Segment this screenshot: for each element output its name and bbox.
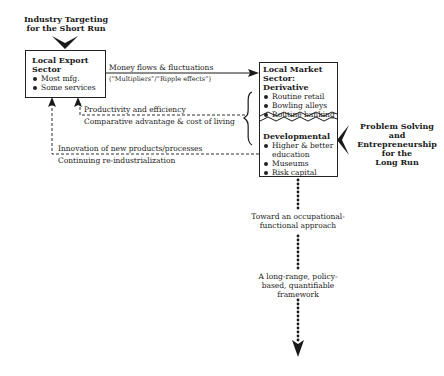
chevron-left-icon (337, 125, 349, 155)
title-line: Derivative (263, 83, 335, 92)
productivity-label: Productivity and efficiency (84, 105, 186, 114)
developmental-items-list: Higher & better education Museums Risk c… (263, 141, 335, 177)
list-item: Some services (32, 83, 99, 92)
developmental-title: Developmental (263, 132, 335, 141)
list-item: Routine banking (263, 110, 335, 119)
heading-line: Long Run (350, 158, 444, 167)
developmental-section: Developmental Higher & better education … (263, 132, 335, 177)
list-item: Routine retail (263, 92, 335, 101)
list-item: Higher & better education (263, 141, 335, 159)
export-box-title: Local Export Sector (32, 56, 99, 74)
local-export-sector-box: Local Export Sector Most mfg. Some servi… (25, 50, 106, 98)
policy-framework-label: A long-range, policy- based, quantifiabl… (243, 272, 353, 299)
dotted-path (297, 179, 300, 342)
label-line: framework (243, 290, 353, 299)
list-item: Museums (263, 159, 335, 168)
export-items-list: Most mfg. Some services (32, 74, 99, 92)
comparative-advantage-label: Comparative advantage & cost of living (84, 117, 235, 126)
label-line: based, quantifiable (243, 281, 353, 290)
multiplier-label: (“Multipliers”/“Ripple effects”) (109, 75, 211, 83)
money-flow-label: Money flows & fluctuations (109, 63, 213, 72)
chevron-down-icon (52, 36, 78, 49)
label-line: functional approach (243, 221, 353, 230)
list-item: Risk capital (263, 168, 335, 177)
reindustrialization-label: Continuing re-industrialization (58, 156, 175, 165)
arrowhead-up-icon (74, 97, 82, 107)
long-run-heading: Problem Solving and Entrepreneurship for… (350, 122, 444, 167)
label-line: A long-range, policy- (243, 272, 353, 281)
title-line: Sector (32, 65, 99, 74)
derivative-items-list: Routine retail Bowling alleys Routine ba… (263, 92, 335, 119)
innovation-label: Innovation of new products/processes (58, 144, 202, 153)
brace-icon (244, 92, 252, 145)
heading-line: for the Short Run (18, 24, 114, 33)
label-line: Toward an occupational- (243, 212, 353, 221)
derivative-title: Local Market Sector: Derivative (263, 65, 335, 92)
list-item: Most mfg. (32, 74, 99, 83)
occupational-approach-label: Toward an occupational- functional appro… (243, 212, 353, 230)
arrowhead-down-icon (292, 340, 304, 357)
short-run-heading: Industry Targeting for the Short Run (18, 15, 114, 33)
list-item: Bowling alleys (263, 101, 335, 110)
derivative-section: Local Market Sector: Derivative Routine … (263, 65, 335, 119)
